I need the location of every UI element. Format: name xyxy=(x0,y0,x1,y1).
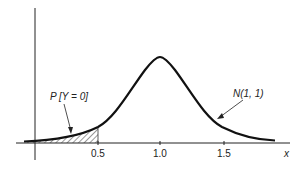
tick-label-1.5: 1.5 xyxy=(217,148,231,159)
curve-label: N(1, 1) xyxy=(233,88,264,99)
tick-label-1.0: 1.0 xyxy=(153,148,167,159)
curve-arrowhead-icon xyxy=(217,113,224,119)
curve-arrow xyxy=(220,100,243,117)
x-axis-label: x xyxy=(283,148,290,159)
tick-label-0.5: 0.5 xyxy=(91,148,105,159)
chart: 0.5 1.0 1.5 x P [Y = 0] N(1, 1) xyxy=(0,0,305,172)
shaded-arrowhead-icon xyxy=(68,127,73,134)
shaded-arrow xyxy=(64,104,71,131)
shaded-area-label: P [Y = 0] xyxy=(50,91,88,102)
